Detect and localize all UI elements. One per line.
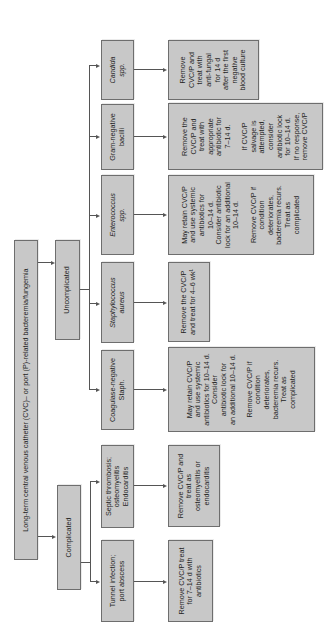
arrow-icon [96,581,100,585]
complicated-box: Complicated [57,485,81,590]
arrow-icon [163,581,167,585]
connector-root-complicated [38,536,52,537]
arrow-icon [163,485,167,489]
connector-cons [89,389,96,390]
candida-action-box: Remove CVC/P and treat with anti-fungal … [168,40,259,100]
arrow-icon [163,302,167,306]
septic-action-box: Remove CVC/P and treat as osteomyelitis … [168,445,220,527]
connector-uncomplicated-bar [89,65,90,390]
arrow-icon [96,389,100,393]
candida-label: Candida spp. [109,57,126,84]
cons-label: Coagulase-negative Staph. [109,358,126,422]
septic-thrombosis-label: Septic thrombosis; osteomyelitis Endocar… [105,457,131,516]
arrow-icon [96,303,100,307]
connector-saureus [89,303,96,304]
gram-negative-box: Gram-negative bacilli [101,104,134,170]
cons-action-text: May retain CVC/P and use systemic antibi… [186,353,298,425]
arrow-icon [52,536,56,540]
complicated-label: Complicated [65,518,74,558]
connector-candida-action [134,69,163,70]
connector-gnb [89,136,96,137]
gram-negative-label: Gram-negative bacilli [109,113,126,161]
gnb-action-box: Remove the CVC/P and treat with appropri… [168,103,323,170]
arrow-icon [96,65,100,69]
enterococcus-box: Enterococcus spp. [101,175,134,255]
tunnel-infection-label: Tunnel infection; port abscess [109,555,126,607]
septic-action-text: Remove CVC/P and treat as osteomyelitis … [177,454,211,519]
arrow-icon [96,136,100,140]
arrow-icon [163,214,167,218]
cons-action-box: May retain CVC/P and use systemic antibi… [168,347,315,432]
root-label: Long-term central venous catheter (CVC)–… [22,268,31,531]
uncomplicated-label: Uncomplicated [63,266,72,314]
connector-complicated-stem [81,562,90,563]
septic-thrombosis-box: Septic thrombosis; osteomyelitis Endocar… [101,445,134,528]
saureus-action-text: Remove the CVC/P and treat for 4–6 wk¹ [180,269,197,335]
cons-box: Coagulase-negative Staph. [101,350,134,430]
connector-entero [89,215,96,216]
connector-uncomplicated-stem [80,289,89,290]
entero-action-text: May retain CVC/P and use systemic antibi… [181,182,301,248]
root-box: Long-term central venous catheter (CVC)–… [14,240,38,560]
tunnel-action-box: Remove CVC/P treat for 7–14 d with antib… [168,540,213,622]
arrow-icon [96,481,100,485]
tunnel-action-text: Remove CVC/P treat for 7–14 d with antib… [178,548,204,615]
arrow-icon [163,136,167,140]
arrow-icon [163,69,167,73]
connector-septic-action [134,485,163,486]
staph-aureus-label: Staphylococcus aureus [109,277,126,327]
connector-cons-action [134,389,163,390]
connector-complicated-bar [90,481,91,582]
connector-saureus-action [134,302,163,303]
arrow-icon [96,215,100,219]
arrow-icon [163,389,167,393]
enterococcus-label: Enterococcus spp. [109,193,126,237]
connector-root-uncomplicated [38,262,51,263]
gnb-action-text: Remove the CVC/P and treat with appropri… [181,113,310,161]
connector-tunnel-action [134,581,163,582]
staph-aureus-box: Staphylococcus aureus [101,262,134,343]
flowchart-canvas: Long-term central venous catheter (CVC)–… [0,0,332,644]
connector-candida [89,65,96,66]
entero-action-box: May retain CVC/P and use systemic antibi… [168,175,314,255]
candida-action-text: Remove CVC/P and treat with anti-fungal … [179,49,248,90]
connector-entero-action [134,214,163,215]
saureus-action-box: Remove the CVC/P and treat for 4–6 wk¹ [168,262,210,342]
candida-box: Candida spp. [101,40,134,100]
uncomplicated-box: Uncomplicated [55,240,80,340]
connector-gnb-action [134,136,163,137]
tunnel-infection-box: Tunnel infection; port abscess [101,540,134,622]
